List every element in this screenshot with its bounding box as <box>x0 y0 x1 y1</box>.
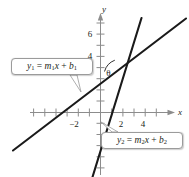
line-y2 <box>93 18 142 177</box>
eq1-equals: = <box>34 61 44 71</box>
coordinate-plot: θ x y −2 2 4 6 4 <box>0 0 189 177</box>
eq2-b-sub: 2 <box>164 138 167 145</box>
eq2-plus: + <box>149 135 159 145</box>
y-axis-arrowhead <box>98 13 103 21</box>
eq1-b-sub: 1 <box>74 64 77 71</box>
x-tick-label-4: 4 <box>141 119 146 129</box>
callout-line-y2: y2 = m2x + b2 <box>101 132 183 149</box>
x-axis-label: x <box>177 107 182 117</box>
callout-1-tail <box>70 75 81 92</box>
equation-y2: y2 = m2x + b2 <box>117 136 167 146</box>
x-tick-label-neg2: −2 <box>69 119 79 129</box>
y-axis-label: y <box>101 4 106 14</box>
callout-line-y1: y1 = m1x + b1 <box>11 58 93 75</box>
y-tick-label-6: 6 <box>88 29 93 39</box>
line-y1 <box>13 19 186 151</box>
x-tick-label-2: 2 <box>119 119 124 129</box>
equation-y1: y1 = m1x + b1 <box>27 62 77 72</box>
eq2-equals: = <box>124 135 134 145</box>
angle-label: θ <box>106 68 110 78</box>
eq1-plus: + <box>59 61 69 71</box>
graph-figure: θ x y −2 2 4 6 4 y1 = m1x + b1 y2 = m2x … <box>0 0 189 177</box>
x-axis-arrowhead <box>168 110 176 115</box>
